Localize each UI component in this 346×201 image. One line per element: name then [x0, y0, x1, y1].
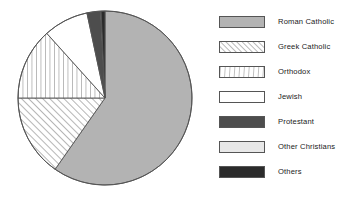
legend-item-other-christians[interactable]: Other Christians [219, 138, 335, 156]
legend-label-greek-catholic: Greek Catholic [278, 43, 330, 51]
legend-swatch-greek-catholic [219, 41, 265, 53]
legend-item-others[interactable]: Others [219, 163, 302, 181]
legend-swatch-protestant [219, 116, 265, 128]
legend-swatch-orthodox [219, 66, 265, 78]
legend-label-others: Others [278, 168, 302, 176]
pie-slices-group [18, 11, 192, 185]
legend-label-orthodox: Orthodox [278, 68, 310, 76]
legend-item-roman-catholic[interactable]: Roman Catholic [219, 13, 334, 31]
legend-item-jewish[interactable]: Jewish [219, 88, 302, 106]
legend-label-jewish: Jewish [278, 93, 302, 101]
legend-label-other-christians: Other Christians [278, 143, 335, 151]
legend-swatch-roman-catholic [219, 16, 265, 28]
legend-item-orthodox[interactable]: Orthodox [219, 63, 310, 81]
chart-legend: Roman Catholic Greek Catholic Orthodox J… [219, 8, 344, 193]
legend-label-roman-catholic: Roman Catholic [278, 18, 334, 26]
legend-item-protestant[interactable]: Protestant [219, 113, 314, 131]
legend-swatch-jewish [219, 91, 265, 103]
legend-item-greek-catholic[interactable]: Greek Catholic [219, 38, 330, 56]
legend-label-protestant: Protestant [278, 118, 314, 126]
legend-swatch-other-christians [219, 141, 265, 153]
legend-swatch-others [219, 166, 265, 178]
